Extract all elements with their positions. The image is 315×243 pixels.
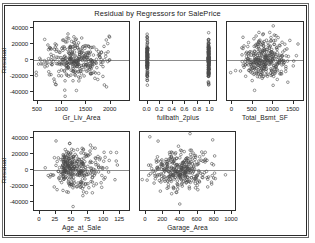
x-tick-mark xyxy=(179,211,180,214)
y-tick-mark xyxy=(30,91,33,92)
y-tick-mark xyxy=(30,153,33,154)
y-tick-mark xyxy=(30,27,33,28)
x-tick-mark xyxy=(39,211,40,214)
x-tick-mark xyxy=(197,211,198,214)
x-tick-mark xyxy=(162,211,163,214)
y-axis-label: Residual xyxy=(0,141,7,201)
x-tick-label: 2000 xyxy=(94,105,126,112)
data-points-garage-area xyxy=(140,132,235,210)
x-tick-mark xyxy=(103,211,104,214)
x-tick-mark xyxy=(172,101,173,104)
panel-frame-garage-area xyxy=(139,131,236,211)
scatter-panel-total-bsmt-sf xyxy=(226,21,304,101)
y-axis-label: Residual xyxy=(0,31,7,91)
x-tick-mark xyxy=(145,211,146,214)
x-tick-mark xyxy=(214,211,215,214)
x-tick-mark xyxy=(272,101,273,104)
x-tick-mark xyxy=(61,101,62,104)
scatter-panel-garage-area xyxy=(139,131,236,211)
panel-frame-fullbath-2plus xyxy=(139,21,217,101)
y-tick-mark xyxy=(30,137,33,138)
scatter-panel-gr-liv-area xyxy=(33,21,130,101)
x-tick-mark xyxy=(55,211,56,214)
x-tick-mark xyxy=(184,101,185,104)
y-tick-mark xyxy=(30,59,33,60)
panel-frame-age-at-sale xyxy=(33,131,130,211)
panel-frame-gr-liv-area xyxy=(33,21,130,101)
x-tick-mark xyxy=(71,211,72,214)
x-tick-mark xyxy=(110,101,111,104)
x-tick-mark xyxy=(231,211,232,214)
x-tick-mark xyxy=(159,101,160,104)
x-tick-label: 1000 xyxy=(215,215,247,222)
x-tick-mark xyxy=(293,101,294,104)
data-points-gr-liv-area xyxy=(34,22,129,100)
x-tick-mark xyxy=(87,211,88,214)
scatter-panel-fullbath-2plus xyxy=(139,21,217,101)
x-axis-label-gr-liv-area: Gr_Liv_Area xyxy=(33,114,130,121)
y-tick-mark xyxy=(30,169,33,170)
x-axis-label-garage-area: Garage_Area xyxy=(139,224,236,231)
x-axis-label-fullbath-2plus: fullbath_2plus xyxy=(139,114,217,121)
data-points-fullbath-2plus xyxy=(140,22,216,100)
x-tick-mark xyxy=(231,101,232,104)
x-tick-mark xyxy=(252,101,253,104)
x-tick-mark xyxy=(85,101,86,104)
x-tick-mark xyxy=(147,101,148,104)
x-tick-mark xyxy=(37,101,38,104)
scatter-panel-age-at-sale xyxy=(33,131,130,211)
chart-title: Residual by Regressors for SalePrice xyxy=(0,9,315,18)
x-axis-label-total-bsmt-sf: Total_Bsmt_SF xyxy=(226,114,304,121)
x-axis-label-age-at-sale: Age_at_Sale xyxy=(33,224,130,231)
y-tick-mark xyxy=(30,43,33,44)
y-tick-mark xyxy=(30,185,33,186)
data-points-total-bsmt-sf xyxy=(227,22,303,100)
panel-frame-total-bsmt-sf xyxy=(226,21,304,101)
x-tick-label: 1500 xyxy=(277,105,309,112)
data-points-age-at-sale xyxy=(34,132,129,210)
x-tick-mark xyxy=(119,211,120,214)
y-tick-mark xyxy=(30,201,33,202)
x-tick-mark xyxy=(209,101,210,104)
x-tick-mark xyxy=(197,101,198,104)
y-tick-mark xyxy=(30,75,33,76)
